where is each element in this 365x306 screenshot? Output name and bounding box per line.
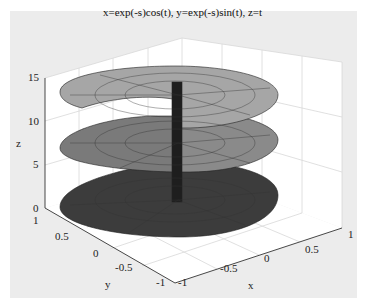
svg-text:15: 15 [28, 71, 40, 83]
y-axis-label: y [105, 278, 111, 290]
svg-text:0: 0 [93, 247, 99, 259]
svg-text:5: 5 [33, 158, 39, 170]
svg-text:1: 1 [33, 214, 39, 226]
svg-text:-0.5: -0.5 [220, 262, 238, 274]
svg-text:0: 0 [264, 252, 270, 264]
svg-text:-1: -1 [178, 276, 187, 288]
svg-text:-1: -1 [156, 276, 165, 288]
x-axis-label: x [248, 279, 254, 291]
svg-text:10: 10 [28, 115, 40, 127]
svg-text:0.5: 0.5 [55, 230, 69, 242]
plot-area: 15 10 5 0 z 1 0.5 0 -0.5 -1 y -1 -0.5 0 … [0, 0, 365, 306]
svg-text:0.5: 0.5 [305, 243, 319, 255]
svg-text:-0.5: -0.5 [115, 261, 133, 273]
svg-text:1: 1 [348, 228, 354, 240]
z-axis-label: z [16, 137, 21, 149]
svg-text:0: 0 [33, 202, 39, 214]
z-axis-ticks: 15 10 5 0 [28, 71, 40, 214]
surface-helicoid [60, 66, 278, 237]
